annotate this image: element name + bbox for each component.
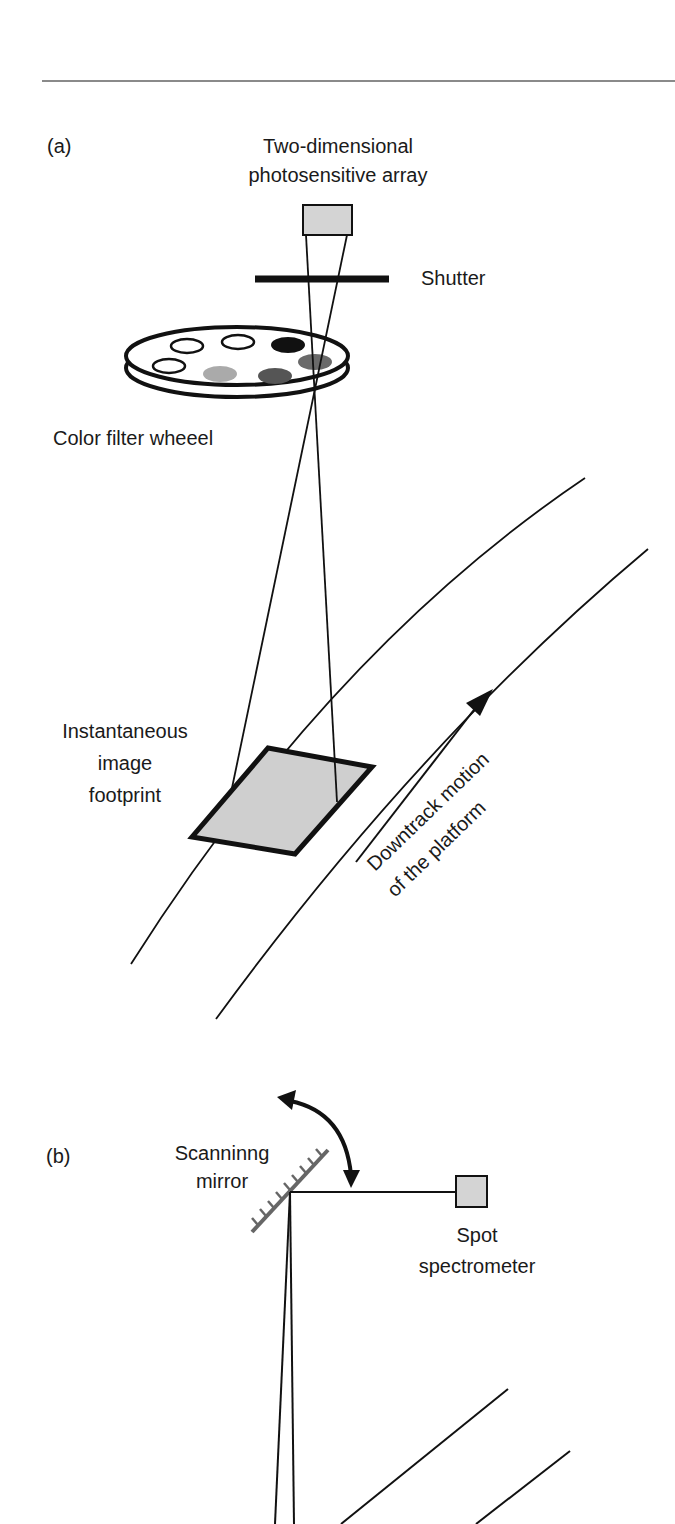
track-edge-lower-b <box>476 1451 570 1524</box>
footprint-label-line3: footprint <box>89 784 162 806</box>
figure-canvas: (a) Two-dimensional photosensitive array… <box>0 0 675 1524</box>
shutter-label: Shutter <box>421 267 486 289</box>
spectrometer-label-line1: Spot <box>456 1224 498 1246</box>
track-edge-upper <box>131 478 585 964</box>
beam-left-a <box>306 235 337 802</box>
filter-clear-3 <box>153 359 185 373</box>
image-footprint <box>192 748 372 854</box>
filter-clear-2 <box>222 335 254 349</box>
photosensitive-array <box>303 205 352 235</box>
scan-direction-arrow-icon <box>277 1090 360 1188</box>
filter-black <box>271 337 305 353</box>
filter-mid-gray <box>298 354 332 370</box>
mirror-label-line1: Scanninng <box>175 1142 270 1164</box>
mirror-label-line2: mirror <box>196 1170 249 1192</box>
footprint-label-line2: image <box>98 752 152 774</box>
filter-clear-1 <box>171 339 203 353</box>
array-label-line2: photosensitive array <box>249 164 428 186</box>
wheel-label: Color filter wheeel <box>53 427 213 449</box>
track-edge-upper-b <box>341 1389 508 1524</box>
filter-dark-gray <box>258 368 292 384</box>
spectrometer-label-line2: spectrometer <box>419 1255 536 1277</box>
footprint-label-line1: Instantaneous <box>62 720 188 742</box>
beam-right-b <box>290 1192 294 1524</box>
array-label-line1: Two-dimensional <box>263 135 413 157</box>
beam-right-a <box>232 235 347 788</box>
filter-light-gray <box>203 366 237 382</box>
spot-spectrometer <box>456 1176 487 1207</box>
beam-left-b <box>275 1192 290 1524</box>
panel-a-label: (a) <box>47 135 71 157</box>
panel-b-label: (b) <box>46 1145 70 1167</box>
